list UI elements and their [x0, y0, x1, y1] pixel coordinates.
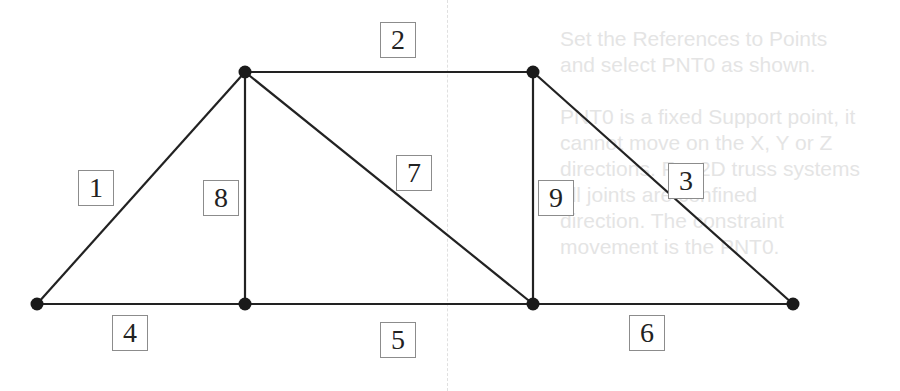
member-label-6: 6	[629, 315, 665, 351]
node-E	[527, 298, 540, 311]
node-B	[239, 66, 252, 79]
member-label-9: 9	[538, 180, 574, 216]
member-label-2: 2	[380, 22, 416, 58]
node-C	[239, 298, 252, 311]
node-A	[31, 298, 44, 311]
node-F	[787, 298, 800, 311]
node-D	[527, 66, 540, 79]
member-label-4: 4	[112, 315, 148, 351]
member-7	[245, 72, 533, 304]
member-label-5: 5	[380, 322, 416, 358]
member-label-8: 8	[203, 180, 239, 216]
member-label-1: 1	[78, 170, 114, 206]
member-label-3: 3	[668, 163, 704, 199]
member-label-7: 7	[396, 155, 432, 191]
